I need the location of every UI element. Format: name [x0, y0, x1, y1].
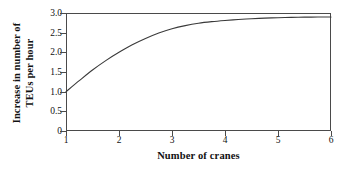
x-axis-tick-label: 6 [322, 135, 340, 145]
data-curve-svg [66, 13, 331, 131]
x-axis-tick-label: 4 [216, 135, 234, 145]
y-axis-title-text: Increase in number of TEUs per hour [10, 23, 36, 124]
x-axis-title: Number of cranes [66, 150, 331, 161]
y-axis-title-line-2: TEUs per hour [23, 23, 36, 124]
x-axis-tick-label: 3 [163, 135, 181, 145]
y-axis-title: Increase in number of TEUs per hour [0, 0, 46, 146]
chart-figure: Increase in number of TEUs per hour 00.5… [0, 0, 344, 172]
series-line-increase-in-teus-per-hour [66, 17, 331, 92]
y-axis-title-line-1: Increase in number of [10, 23, 23, 124]
x-axis-tick-label: 5 [269, 135, 287, 145]
x-axis-tick-label: 1 [57, 135, 75, 145]
x-axis-tick-label: 2 [110, 135, 128, 145]
y-axis-tick-labels: 00.51.01.52.02.53.0 [44, 0, 62, 172]
x-axis-tick-labels: 123456 [66, 135, 331, 147]
